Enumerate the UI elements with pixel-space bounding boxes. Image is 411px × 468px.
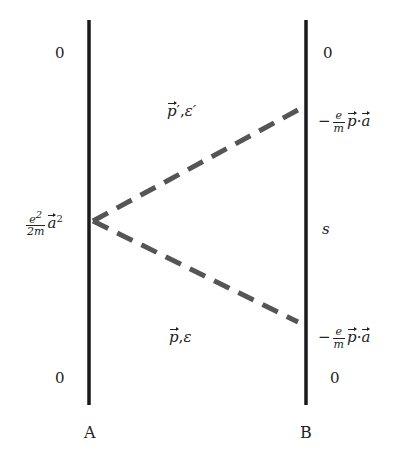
vertex-fraction: e2 2m	[26, 210, 45, 238]
upper-state-label: p′,ε′	[167, 104, 196, 119]
lower-state-label: p,ε	[169, 330, 191, 345]
dashed-upper-propagator	[93, 110, 298, 221]
b-top-zero: 0	[323, 46, 333, 61]
b-lower-coupling-label: −emp·a	[318, 326, 370, 350]
axis-label-b: B	[300, 425, 312, 441]
b-middle-s: s	[322, 222, 330, 237]
axis-label-a: A	[84, 425, 96, 441]
dashed-lower-propagator	[93, 221, 298, 322]
vertex-label: e2 2m a2	[24, 210, 63, 238]
b-upper-coupling-label: −emp·a	[318, 110, 370, 134]
a-bottom-zero: 0	[55, 371, 65, 386]
b-bottom-zero: 0	[330, 371, 340, 386]
a-top-zero: 0	[55, 46, 65, 61]
